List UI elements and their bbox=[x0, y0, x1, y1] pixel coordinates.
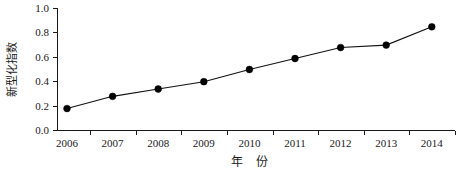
x-tick-label: 2008 bbox=[147, 137, 170, 149]
data-point bbox=[64, 105, 71, 112]
y-tick-label: 0.0 bbox=[35, 124, 49, 136]
y-tick-label: 0.4 bbox=[35, 75, 49, 87]
y-tick-label: 0.6 bbox=[35, 51, 49, 63]
x-axis-tick-labels: 2006 2007 2008 2009 2010 2011 2012 2013 … bbox=[56, 137, 443, 149]
y-tick-label: 1.0 bbox=[35, 2, 49, 14]
x-tick-label: 2013 bbox=[375, 137, 398, 149]
x-tick-label: 2012 bbox=[330, 137, 352, 149]
chart-container: 0.0 0.2 0.4 0.6 0.8 1.0 新型化指数 2006 2007 … bbox=[0, 0, 463, 173]
line-chart: 0.0 0.2 0.4 0.6 0.8 1.0 新型化指数 2006 2007 … bbox=[0, 0, 463, 173]
data-point bbox=[200, 78, 207, 85]
data-point bbox=[246, 66, 253, 73]
x-tick-label: 2007 bbox=[102, 137, 125, 149]
data-point bbox=[109, 93, 116, 100]
x-tick-label: 2010 bbox=[238, 137, 261, 149]
data-point bbox=[292, 55, 299, 62]
y-tick-label: 0.2 bbox=[35, 100, 49, 112]
x-axis-title: 年 份 bbox=[231, 155, 274, 169]
y-axis-title: 新型化指数 bbox=[5, 42, 19, 97]
data-point bbox=[337, 44, 344, 51]
data-point bbox=[155, 86, 162, 93]
x-tick-label: 2006 bbox=[56, 137, 79, 149]
x-tick-label: 2014 bbox=[421, 137, 444, 149]
x-tick-label: 2009 bbox=[193, 137, 216, 149]
y-tick-label: 0.8 bbox=[35, 26, 49, 38]
data-point bbox=[428, 23, 435, 30]
x-tick-label: 2011 bbox=[284, 137, 306, 149]
data-point bbox=[383, 42, 390, 49]
